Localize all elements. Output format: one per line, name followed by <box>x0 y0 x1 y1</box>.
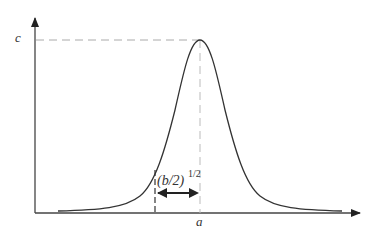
width-label: (b/2) <box>157 173 185 189</box>
width-exponent: 1/2 <box>188 168 201 179</box>
y-label-c: c <box>15 30 21 45</box>
gaussian-diagram: c a (b/2) 1/2 <box>0 0 377 234</box>
x-label-a: a <box>196 214 203 229</box>
